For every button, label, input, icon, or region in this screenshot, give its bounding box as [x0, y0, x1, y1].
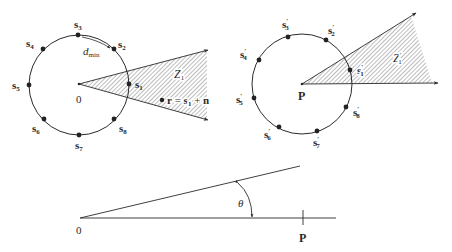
- signal-point-s4: [41, 47, 46, 52]
- right-constellation: P s′1 s′2 s′3 s′4 s′5 s′6 s′7 s′8 Z′1: [236, 13, 438, 150]
- signal-point-s2-prime: [324, 38, 329, 43]
- label-s4: s4: [26, 37, 34, 51]
- label-s2: s2: [118, 38, 126, 52]
- label-s5-prime: s′5: [236, 92, 243, 107]
- point-p-label-bottom: P: [299, 231, 306, 245]
- label-s4-prime: s′4: [240, 47, 247, 62]
- label-s3-prime: s′3: [282, 17, 289, 32]
- decision-region-z1-prime: [302, 16, 432, 84]
- origin-label-bottom: 0: [76, 224, 82, 236]
- label-s6-prime: s′6: [264, 127, 271, 142]
- label-s5: s5: [12, 79, 20, 93]
- left-constellation: 0 s1 s2 s3 s4 s5 s6 s7 s8 dmin Z1 r = s1…: [12, 18, 209, 153]
- label-s7: s7: [75, 139, 83, 153]
- signal-point-s7-prime: [315, 129, 320, 134]
- region-label-z1-prime: Z′1: [393, 51, 402, 66]
- signal-point-s5-prime: [252, 96, 257, 101]
- label-s8: s8: [119, 122, 127, 136]
- signal-point-s8-prime: [344, 105, 349, 110]
- signal-point-s5: [27, 83, 32, 88]
- label-s2-prime: s′2: [328, 23, 335, 38]
- origin-dot: [78, 83, 81, 86]
- constellation-diagram: 0 s1 s2 s3 s4 s5 s6 s7 s8 dmin Z1 r = s1…: [0, 0, 452, 252]
- angle-theta-label: θ: [238, 197, 244, 209]
- signal-point-s7: [77, 133, 82, 138]
- label-s1-prime: s′1: [357, 63, 364, 78]
- label-s7-prime: s′7: [313, 135, 320, 150]
- point-p-dot: [301, 83, 304, 86]
- received-point-r: [160, 98, 164, 102]
- signal-point-s6-prime: [277, 125, 282, 130]
- signal-point-s3-prime: [286, 35, 291, 40]
- origin-label: 0: [76, 93, 82, 105]
- dmin-label: dmin: [83, 45, 100, 59]
- decision-region-z1: [79, 50, 207, 120]
- signal-point-s8: [112, 117, 117, 122]
- label-s3: s3: [74, 18, 82, 32]
- rotated-ray: [80, 166, 300, 218]
- label-s6: s6: [32, 122, 40, 136]
- rotation-angle-diagram: 0 P θ: [76, 166, 336, 245]
- signal-point-s3: [76, 33, 81, 38]
- point-p-label: P: [298, 89, 305, 103]
- signal-point-s1: [127, 82, 132, 87]
- signal-point-s1-prime: [348, 68, 353, 73]
- signal-point-s4-prime: [257, 58, 262, 63]
- signal-point-s2: [112, 47, 117, 52]
- signal-point-s6: [42, 117, 47, 122]
- label-s8-prime: s′8: [353, 105, 360, 120]
